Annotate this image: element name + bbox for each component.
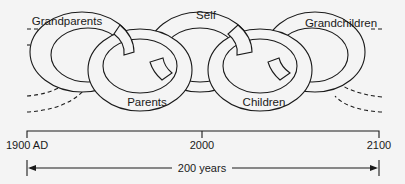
label-self: Self <box>196 9 217 21</box>
arrowhead-left-icon <box>28 165 36 171</box>
label-grandparents: Grandparents <box>32 15 103 27</box>
label-children: Children <box>243 96 286 108</box>
label-parents: Parents <box>127 96 167 108</box>
chain-diagram: Grandparents Parents Self Children Grand… <box>0 0 405 184</box>
span-label: 200 years <box>178 162 227 174</box>
timeline-axis <box>27 131 379 138</box>
tick-label-2000: 2000 <box>190 139 214 151</box>
tick-label-2100: 2100 <box>367 139 391 151</box>
arrowhead-right-icon <box>370 165 378 171</box>
label-grandchildren: Grandchildren <box>305 17 377 29</box>
tick-label-1900: 1900 AD <box>6 139 48 151</box>
